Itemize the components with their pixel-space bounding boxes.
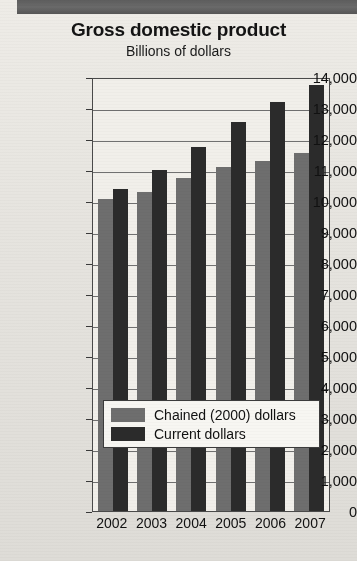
- y-axis-tick-label: 6,000: [281, 318, 357, 334]
- x-axis-tick-label: 2006: [255, 515, 286, 531]
- x-axis-tick-label: 2004: [176, 515, 207, 531]
- y-axis-tick-mark: [86, 450, 92, 451]
- plot-wrapper: Chained (2000) dollars Current dollars 0…: [0, 0, 357, 561]
- legend-entry-current: Current dollars: [111, 425, 311, 442]
- x-axis-tick-label: 2002: [96, 515, 127, 531]
- bar-current-2005: [231, 122, 246, 511]
- y-axis-tick-label: 5,000: [281, 349, 357, 365]
- x-axis-tick-label: 2007: [295, 515, 326, 531]
- bar-chained-2004: [176, 178, 191, 511]
- y-axis-tick-label: 9,000: [281, 225, 357, 241]
- legend-label-chained: Chained (2000) dollars: [154, 407, 296, 423]
- x-axis-tick-label: 2003: [136, 515, 167, 531]
- y-axis-tick-mark: [86, 512, 92, 513]
- y-axis-tick-label: 7,000: [281, 287, 357, 303]
- y-axis-tick-label: 2,000: [281, 442, 357, 458]
- y-axis-tick-mark: [86, 109, 92, 110]
- y-axis-tick-mark: [86, 326, 92, 327]
- x-axis-tick-label: 2005: [215, 515, 246, 531]
- legend-swatch-chained: [111, 408, 145, 422]
- y-axis-tick-label: 11,000: [281, 163, 357, 179]
- bar-current-2003: [152, 170, 167, 511]
- y-axis-tick-mark: [86, 481, 92, 482]
- y-axis-tick-mark: [86, 388, 92, 389]
- bar-chained-2006: [255, 161, 270, 511]
- legend-label-current: Current dollars: [154, 426, 246, 442]
- y-axis-tick-label: 3,000: [281, 411, 357, 427]
- y-axis-tick-mark: [86, 357, 92, 358]
- gdp-chart-figure: Gross domestic product Billions of dolla…: [0, 0, 357, 561]
- y-axis-tick-mark: [86, 233, 92, 234]
- y-axis-tick-mark: [86, 202, 92, 203]
- legend-swatch-current: [111, 427, 145, 441]
- y-axis-tick-label: 4,000: [281, 380, 357, 396]
- y-axis-tick-label: 14,000: [281, 70, 357, 86]
- y-axis-tick-mark: [86, 171, 92, 172]
- y-axis-tick-label: 12,000: [281, 132, 357, 148]
- bar-current-2004: [191, 147, 206, 511]
- y-axis-tick-label: 13,000: [281, 101, 357, 117]
- y-axis-tick-mark: [86, 140, 92, 141]
- bar-chained-2003: [137, 192, 152, 511]
- y-axis-tick-mark: [86, 78, 92, 79]
- y-axis-tick-mark: [86, 264, 92, 265]
- bar-chained-2005: [216, 167, 231, 511]
- y-axis-tick-mark: [86, 419, 92, 420]
- y-axis-tick-label: 1,000: [281, 473, 357, 489]
- bar-chained-2002: [98, 199, 113, 511]
- y-axis-tick-label: 8,000: [281, 256, 357, 272]
- y-axis-tick-label: 10,000: [281, 194, 357, 210]
- bar-current-2002: [113, 189, 128, 511]
- y-axis-tick-mark: [86, 295, 92, 296]
